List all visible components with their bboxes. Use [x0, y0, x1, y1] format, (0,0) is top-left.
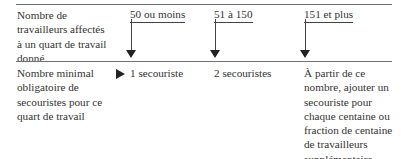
top-rule: [16, 4, 392, 5]
middle-rule: [16, 61, 392, 62]
workers-per-shift-label: Nombre de travailleurs affectés à un qua…: [17, 8, 106, 65]
column-header-151-and-more: 151 et plus: [304, 7, 353, 23]
down-arrow-icon: [126, 50, 136, 58]
value-additional-first-aiders: À partir de ce nombre, ajouter un secour…: [304, 66, 392, 159]
value-2-first-aiders: 2 secouristes: [214, 66, 271, 80]
column-connector-line: [215, 19, 216, 53]
column-header-50-or-less: 50 ou moins: [130, 7, 185, 23]
down-arrow-icon: [210, 50, 220, 58]
column-connector-line: [131, 19, 132, 53]
column-header-51-to-150: 51 à 150: [214, 7, 253, 23]
column-connector-line: [305, 19, 306, 53]
value-1-first-aider: 1 secouriste: [130, 66, 183, 80]
right-triangle-icon: [116, 69, 125, 79]
minimum-first-aiders-label: Nombre minimal obligatoire de secouriste…: [17, 66, 102, 123]
down-arrow-icon: [300, 50, 310, 58]
